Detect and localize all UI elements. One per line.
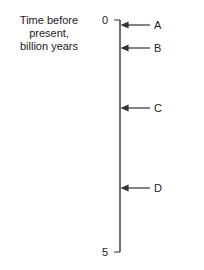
arrow-icon-c [122, 106, 150, 111]
marker-label-d: D [154, 182, 162, 194]
marker-label-b: B [154, 42, 161, 54]
timeline-axis [0, 0, 204, 270]
arrow-icon-a [122, 23, 150, 28]
arrow-icon-b [122, 46, 150, 51]
marker-label-a: A [154, 19, 161, 31]
marker-label-c: C [154, 102, 162, 114]
arrow-icon-d [122, 186, 150, 191]
